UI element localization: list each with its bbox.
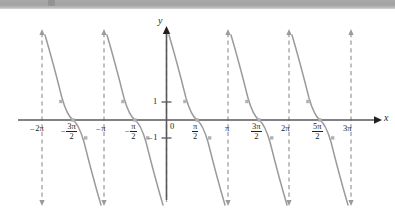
asymptote-arrowheads xyxy=(39,29,353,206)
x-tick-label-neg-pi: −π xyxy=(96,124,106,133)
x-axis-label: x xyxy=(384,113,388,123)
y-axis-arrowhead xyxy=(163,26,170,34)
x-tick-value: 2π xyxy=(35,123,44,133)
fraction: π2 xyxy=(130,122,136,140)
x-axis-arrowhead xyxy=(374,116,382,123)
x-tick-value: π xyxy=(101,123,105,133)
denominator: 2 xyxy=(66,131,77,141)
fraction: 5π2 xyxy=(312,122,323,140)
x-tick-label-3pi-over-2: 3π2 xyxy=(251,122,262,140)
numerator: 3π xyxy=(251,122,262,131)
x-tick-label-pi: π xyxy=(225,124,229,133)
numerator: π xyxy=(192,122,198,131)
denominator: 2 xyxy=(130,131,136,141)
x-tick-label-3pi: 3π xyxy=(343,124,352,133)
denominator: 2 xyxy=(312,131,323,141)
fraction: π2 xyxy=(192,122,198,140)
x-tick-label-neg-pi-over-2: −π2 xyxy=(125,122,137,140)
figure-canvas: y x −2π −3π2 −π −π2 0 π2 π 3π2 2π 5π2 3π… xyxy=(0,0,395,213)
x-tick-label-neg-2pi: −2π xyxy=(30,124,44,133)
x-tick-label-5pi-over-2: 5π2 xyxy=(312,122,323,140)
y-axis-label: y xyxy=(158,16,162,26)
x-tick-label-pi-over-2: π2 xyxy=(192,122,198,140)
fraction: 3π2 xyxy=(251,122,262,140)
x-tick-label-2pi: 2π xyxy=(281,124,290,133)
x-tick-label-neg-3pi-over-2: −3π2 xyxy=(61,122,77,140)
asymptote-group xyxy=(42,33,351,202)
y-tick-value: 1 xyxy=(153,132,157,142)
y-tick-label-1: 1 xyxy=(153,97,157,106)
minus-sign: − xyxy=(61,127,66,136)
origin-label: 0 xyxy=(170,122,174,131)
tangent-graph-svg xyxy=(0,0,395,213)
fraction: 3π2 xyxy=(66,122,77,140)
y-axis xyxy=(163,26,170,200)
numerator: π xyxy=(130,122,136,131)
y-tick-label-neg-1: −1 xyxy=(148,133,158,142)
minus-sign: − xyxy=(125,127,130,136)
numerator: 3π xyxy=(66,122,77,131)
numerator: 5π xyxy=(312,122,323,131)
denominator: 2 xyxy=(192,131,198,141)
denominator: 2 xyxy=(251,131,262,141)
